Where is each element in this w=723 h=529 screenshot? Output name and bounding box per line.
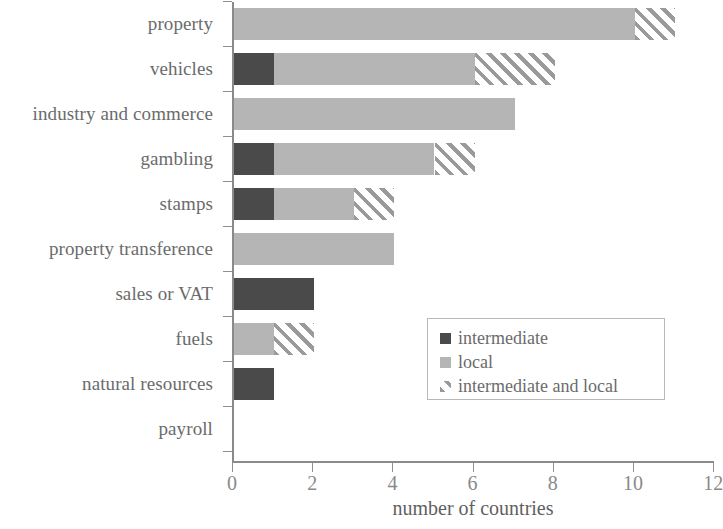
x-axis-tick xyxy=(312,463,313,472)
x-axis-tick-label: 10 xyxy=(623,472,643,495)
y-axis-tick xyxy=(223,136,232,137)
bar-segment xyxy=(274,53,475,85)
category-label: property transference xyxy=(0,233,222,265)
legend-label: local xyxy=(458,353,493,371)
bar-segment xyxy=(274,188,354,220)
bar-segment xyxy=(234,278,314,310)
category-label: payroll xyxy=(0,413,222,445)
category-axis-labels: propertyvehiclesindustry and commercegam… xyxy=(0,8,222,458)
y-axis-tick xyxy=(223,1,232,2)
y-axis-tick xyxy=(223,46,232,47)
category-label: gambling xyxy=(0,143,222,175)
y-axis-tick xyxy=(223,406,232,407)
x-axis-tick xyxy=(633,463,634,472)
bar-segment xyxy=(234,323,274,355)
category-label: property xyxy=(0,8,222,40)
bar-segment xyxy=(234,188,274,220)
x-axis-tick xyxy=(553,463,554,472)
bar-segment xyxy=(354,188,394,220)
bar-segment xyxy=(234,98,515,130)
y-axis-tick xyxy=(223,316,232,317)
bar-segment xyxy=(274,143,434,175)
x-axis-tick-label: 0 xyxy=(227,472,237,495)
x-axis-tick-label: 8 xyxy=(548,472,558,495)
y-axis-tick xyxy=(223,91,232,92)
bar-segment xyxy=(635,8,675,40)
x-axis-tick xyxy=(232,463,233,472)
bar-chart: propertyvehiclesindustry and commercegam… xyxy=(0,0,723,529)
category-label: sales or VAT xyxy=(0,278,222,310)
category-label: industry and commerce xyxy=(0,98,222,130)
legend: intermediatelocalintermediate and local xyxy=(427,318,665,400)
y-axis-tick xyxy=(223,271,232,272)
y-axis-tick xyxy=(223,226,232,227)
legend-items: intermediatelocalintermediate and local xyxy=(440,326,664,398)
category-label: natural resources xyxy=(0,368,222,400)
category-label: stamps xyxy=(0,188,222,220)
y-axis-tick xyxy=(223,451,232,452)
x-axis-tick xyxy=(392,463,393,472)
legend-swatch-icon xyxy=(440,333,451,344)
x-axis-tick-label: 2 xyxy=(307,472,317,495)
x-axis-tick-label: 12 xyxy=(703,472,723,495)
legend-swatch-icon xyxy=(440,381,451,392)
bar-segment xyxy=(274,323,314,355)
bar-segment xyxy=(234,143,274,175)
x-axis-tick-label: 6 xyxy=(468,472,478,495)
y-axis-tick xyxy=(223,361,232,362)
x-axis-tick-label: 4 xyxy=(387,472,397,495)
bar-segment xyxy=(475,53,555,85)
legend-label: intermediate xyxy=(458,329,548,347)
legend-item: intermediate xyxy=(440,326,664,350)
legend-item: intermediate and local xyxy=(440,374,664,398)
legend-item: local xyxy=(440,350,664,374)
x-axis-tick xyxy=(713,463,714,472)
category-label: vehicles xyxy=(0,53,222,85)
bar-segment xyxy=(234,233,394,265)
legend-swatch-icon xyxy=(440,357,451,368)
bar-segment xyxy=(435,143,475,175)
bar-segment xyxy=(234,8,635,40)
x-axis-tick xyxy=(473,463,474,472)
bar-segment xyxy=(234,53,274,85)
y-axis-tick xyxy=(223,181,232,182)
category-label: fuels xyxy=(0,323,222,355)
legend-label: intermediate and local xyxy=(458,377,618,395)
x-axis-title: number of countries xyxy=(232,497,714,520)
bar-segment xyxy=(234,368,274,400)
